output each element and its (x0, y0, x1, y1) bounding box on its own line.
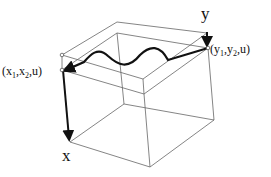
end-point-label: (y1,y2,u) (210, 42, 250, 58)
y-axis-label: y (201, 4, 210, 24)
start-point-label: (x1,x2,u) (2, 64, 42, 80)
x-axis-label: x (62, 146, 71, 166)
diagram-canvas: y x (x1,x2,u) (y1,y2,u) (0, 0, 271, 177)
axis-arrows (63, 32, 207, 138)
cube-edges (62, 22, 214, 167)
box-diagram (0, 0, 271, 177)
wavy-path (66, 48, 208, 70)
